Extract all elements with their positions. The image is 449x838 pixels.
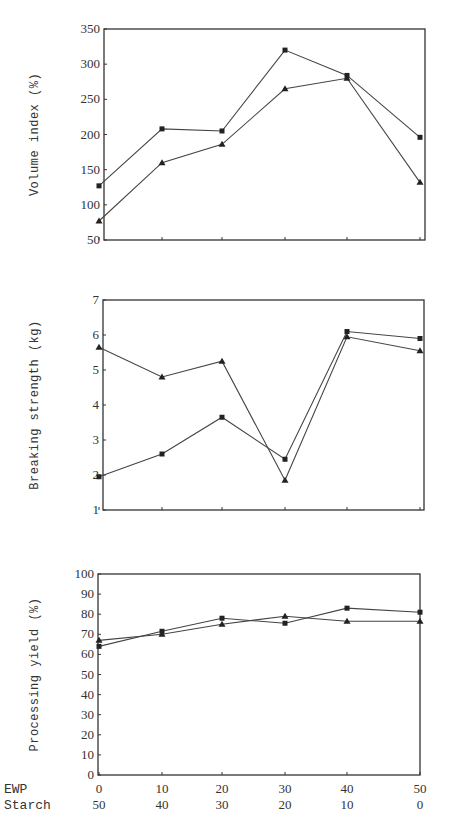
x-tick-ewp: 0	[96, 781, 103, 796]
series-triangle	[96, 75, 424, 224]
data-point-triangle	[282, 613, 289, 619]
data-point-square	[418, 610, 423, 615]
y-tick-label: 5	[93, 362, 100, 377]
x-tick-ewp: 50	[414, 781, 427, 796]
y-tick-label: 300	[81, 56, 101, 71]
y-tick-label: 200	[81, 127, 101, 142]
data-point-triangle	[282, 477, 289, 483]
data-point-square	[283, 457, 288, 462]
x-axis-labels: EWPStarch0102030405050403020100	[4, 781, 427, 813]
data-point-triangle	[219, 358, 226, 364]
y-tick-label: 20	[81, 727, 94, 742]
y-tick-label: 4	[93, 397, 100, 412]
y-axis-ticks: 0102030405060708090100	[75, 566, 102, 782]
data-point-square	[97, 644, 102, 649]
x-tick-starch: 10	[341, 797, 354, 812]
y-tick-label: 350	[81, 21, 101, 36]
y-tick-label: 3	[93, 432, 100, 447]
data-point-square	[283, 621, 288, 626]
data-point-square	[418, 135, 423, 140]
y-tick-label: 60	[81, 646, 94, 661]
series-square	[97, 48, 423, 189]
data-point-square	[97, 183, 102, 188]
data-point-square	[220, 415, 225, 420]
y-axis-label: Volume index (%)	[28, 73, 42, 196]
y-tick-label: 0	[88, 767, 95, 782]
x-tick-starch: 20	[279, 797, 292, 812]
y-axis-ticks: 1234567	[93, 292, 107, 517]
data-point-square	[160, 126, 165, 131]
data-point-square	[345, 606, 350, 611]
breaking-strength-chart: 1234567Breaking strength (kg)	[28, 292, 424, 517]
y-tick-label: 100	[75, 566, 95, 581]
x-tick-starch: 0	[417, 797, 424, 812]
x-tick-ewp: 10	[156, 781, 169, 796]
data-point-square	[283, 48, 288, 53]
x-tick-starch: 50	[93, 797, 106, 812]
y-tick-label: 150	[81, 162, 101, 177]
y-axis-label: Breaking strength (kg)	[28, 320, 42, 489]
y-tick-label: 6	[93, 327, 100, 342]
series-triangle	[96, 613, 424, 643]
processing-yield-chart: 0102030405060708090100Processing yield (…	[28, 566, 424, 782]
volume-index-chart: 50100150200250300350Volume index (%)	[28, 21, 425, 247]
data-point-square	[220, 128, 225, 133]
data-point-square	[160, 452, 165, 457]
plot-frame	[98, 574, 420, 775]
x-tick-starch: 30	[216, 797, 229, 812]
y-axis-ticks: 50100150200250300350	[81, 21, 108, 247]
y-tick-label: 100	[81, 197, 101, 212]
figure: 50100150200250300350Volume index (%)1234…	[0, 0, 449, 838]
data-point-triangle	[96, 344, 103, 350]
x-tick-starch: 40	[156, 797, 169, 812]
y-tick-label: 30	[81, 707, 94, 722]
y-tick-label: 80	[81, 606, 94, 621]
y-tick-label: 250	[81, 91, 101, 106]
series-square	[97, 606, 423, 649]
x-tick-ewp: 20	[216, 781, 229, 796]
data-point-square	[418, 336, 423, 341]
y-tick-label: 40	[81, 687, 94, 702]
y-tick-label: 7	[93, 292, 100, 307]
x-tick-ewp: 30	[279, 781, 292, 796]
data-point-square	[220, 616, 225, 621]
x-row-label-ewp: EWP	[4, 782, 28, 797]
plot-frame	[104, 29, 425, 240]
x-row-label-starch: Starch	[4, 798, 51, 813]
data-point-square	[97, 474, 102, 479]
y-tick-label: 90	[81, 586, 94, 601]
y-tick-label: 50	[87, 232, 100, 247]
series-square	[97, 329, 423, 479]
y-tick-label: 70	[81, 626, 94, 641]
y-tick-label: 10	[81, 747, 94, 762]
y-tick-label: 1	[93, 502, 100, 517]
x-tick-ewp: 40	[341, 781, 354, 796]
y-tick-label: 50	[81, 667, 94, 682]
plot-frame	[103, 300, 424, 510]
y-axis-label: Processing yield (%)	[28, 597, 42, 751]
